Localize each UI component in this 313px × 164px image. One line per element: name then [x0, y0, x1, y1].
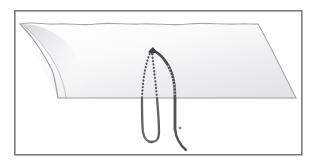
needle-rod-tip: [179, 127, 182, 130]
surgical-illustration: [0, 0, 313, 164]
figure-container: [0, 0, 313, 164]
tissue-flap-group: [20, 23, 296, 98]
needle-rod-group: [82, 127, 182, 130]
